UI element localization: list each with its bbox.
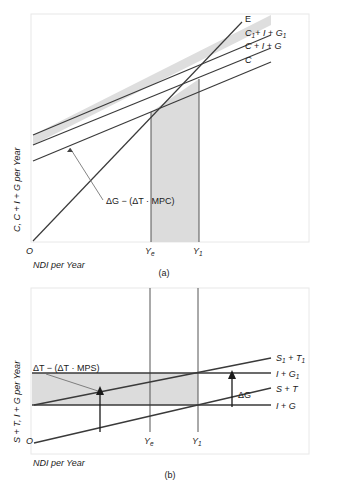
panel-b-label-s-t: S + T (276, 384, 299, 394)
panel-b: ΔT − (ΔT · MPS) ΔG S1 + T1 I + G1 S + T … (12, 288, 309, 480)
panel-b-label-i-g: I + G (276, 401, 296, 411)
panel-b-annotation-left: ΔT − (ΔT · MPS) (33, 363, 99, 373)
panel-a-y-axis-label: C, C + I + G per Year (12, 147, 22, 232)
panel-b-x-axis-label: NDI per Year (33, 458, 86, 468)
economics-diagram-svg: E C1+ I + G1 C + I + G C ΔG − (ΔT · MPC)… (0, 0, 340, 490)
panel-a-label-c1-i-g1: C1+ I + G1 (245, 28, 287, 39)
panel-a-caption: (a) (159, 268, 170, 278)
panel-b-caption: (b) (165, 470, 176, 480)
panel-a-x-axis-label: NDI per Year (33, 260, 86, 270)
panel-a-tick-y1: Y1 (193, 246, 203, 257)
panel-a-label-c-i-g: C + I + G (245, 41, 282, 51)
figure-root: E C1+ I + G1 C + I + G C ΔG − (ΔT · MPC)… (0, 0, 340, 490)
panel-b-annotation-right: ΔG (238, 390, 251, 400)
panel-b-label-s1-t1: S1 + T1 (276, 353, 305, 364)
panel-a: E C1+ I + G1 C + I + G C ΔG − (ΔT · MPC)… (12, 14, 309, 278)
panel-b-y-axis-label: S + T, I + G per Year (12, 360, 22, 443)
panel-a-label-e: E (245, 14, 251, 24)
panel-a-label-c: C (245, 55, 252, 65)
panel-a-origin-label: O (26, 246, 33, 256)
panel-a-tick-ye: Ye (145, 246, 155, 257)
panel-a-annotation: ΔG − (ΔT · MPC) (106, 196, 175, 206)
panel-b-origin-label: O (26, 436, 33, 446)
